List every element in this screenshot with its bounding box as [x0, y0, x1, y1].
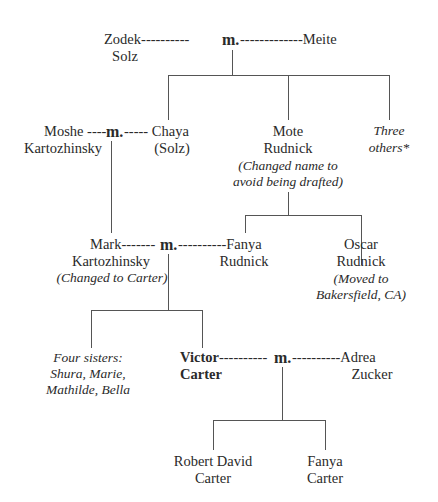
name: Moshe	[44, 123, 83, 139]
connector-mote-down	[288, 192, 289, 215]
person-moshe-surname: Kartozhinsky	[24, 140, 102, 157]
connector-gen3-children-bar	[91, 310, 203, 311]
sisters-line3: Mathilde, Bella	[46, 382, 130, 398]
marriage-dashes: ----------	[178, 236, 226, 252]
marriage-dashes: -----	[124, 123, 148, 139]
marriage-label-gen2: m.	[106, 123, 123, 140]
connector-to-others	[389, 75, 390, 120]
connector-mote-children-bar	[245, 215, 361, 216]
person-mote-surname: Rudnick	[263, 140, 312, 157]
marriage-label-gen4: m.	[274, 349, 291, 366]
connector-gen3-down	[168, 254, 169, 310]
connector-gen4-children-bar	[213, 420, 326, 421]
marriage-label-gen1: m.	[222, 31, 239, 48]
note-mark: (Changed to Carter)	[57, 270, 168, 286]
note-mote-1: (Changed name to	[238, 158, 338, 174]
marriage-dashes: -------	[121, 236, 155, 252]
person-oscar-surname: Rudnick	[336, 253, 385, 270]
name: Victor	[180, 349, 219, 365]
connector-to-fanya-carter	[325, 420, 326, 450]
connector-gen1-down	[232, 50, 233, 75]
connector-to-robert	[213, 420, 214, 450]
person-chaya-maiden: (Solz)	[154, 140, 189, 157]
name: Zodek	[104, 31, 141, 47]
person-adrea-surname: Zucker	[351, 366, 392, 383]
sisters-line1: Four sisters:	[53, 350, 122, 366]
person-zodek-surname: Solz	[112, 48, 138, 65]
connector-to-mote	[288, 75, 289, 120]
person-robert-surname: Carter	[195, 470, 231, 487]
person-chaya: ----- Chaya	[124, 123, 189, 140]
person-victor-surname: Carter	[180, 366, 222, 383]
name: Fanya	[226, 236, 261, 252]
person-mark: Mark-------	[90, 236, 155, 253]
marriage-label-gen3: m.	[160, 236, 177, 253]
person-oscar-first: Oscar	[344, 236, 378, 253]
connector-gen2-moshe-down	[111, 141, 112, 233]
name: Mark	[90, 236, 121, 252]
person-mark-surname: Kartozhinsky	[72, 253, 150, 270]
name: Meite	[303, 31, 337, 47]
marriage-dashes: ----	[87, 123, 106, 139]
name: Chaya	[152, 123, 189, 139]
connector-to-fanya	[245, 215, 246, 233]
marriage-dashes: ----------	[141, 31, 189, 47]
others-line1: Three	[374, 123, 405, 139]
person-fanya-carter-first: Fanya	[307, 453, 342, 470]
connector-gen1-children-bar	[168, 75, 389, 76]
sisters-line2: Shura, Marie,	[50, 366, 125, 382]
person-victor: Victor----------	[180, 349, 267, 366]
person-adrea: ----------Adrea	[292, 349, 376, 366]
person-moshe: Moshe ----	[44, 123, 106, 140]
person-zodek-solz: Zodek----------	[104, 31, 189, 48]
note-mote-2: avoid being drafted)	[233, 174, 343, 190]
connector-gen4-down	[282, 367, 283, 420]
person-fanya-surname: Rudnick	[219, 253, 268, 270]
connector-to-chaya	[168, 75, 169, 120]
person-fanya-carter-surname: Carter	[307, 470, 343, 487]
marriage-dashes: ----------	[219, 349, 267, 365]
marriage-dashes: -------------	[240, 31, 303, 47]
person-meite: -------------Meite	[240, 31, 337, 48]
name: Adrea	[340, 349, 375, 365]
note-oscar-1: (Moved to	[333, 271, 388, 287]
person-robert-first: Robert David	[174, 453, 253, 470]
person-fanya-rudnick: ----------Fanya	[178, 236, 262, 253]
connector-to-victor	[202, 310, 203, 348]
person-mote-first: Mote	[273, 123, 304, 140]
others-line2: others*	[369, 140, 410, 156]
note-oscar-2: Bakersfield, CA)	[316, 287, 406, 303]
marriage-dashes: ----------	[292, 349, 340, 365]
connector-to-sisters	[91, 310, 92, 348]
